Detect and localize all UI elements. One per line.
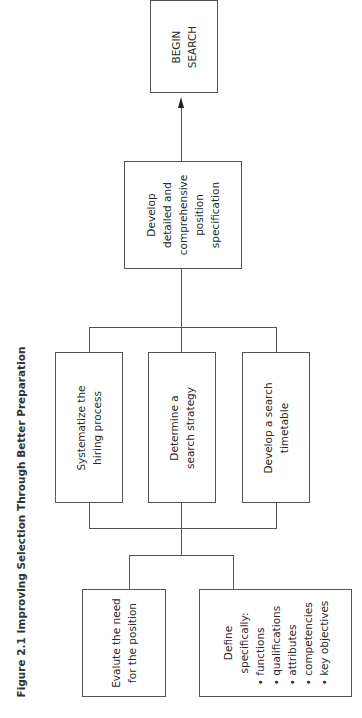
connector-upper-right [276,327,277,352]
connector-inner-left [129,555,130,589]
define-specifically-box: Define specifically: • functions • quali… [199,589,352,697]
evaluate-need-box: Evalute the need for the position [82,589,166,697]
inner-bracket [129,555,234,556]
begin-search-box: BEGIN SEARCH [150,0,218,93]
connector-lower-left [89,503,90,528]
define-item: • qualifications [268,601,284,686]
connector-lower-to-inner [181,528,182,555]
position-specification-label: Develop detailed and comprehensive posit… [143,175,223,255]
define-item: • competencies [300,601,316,686]
connector-inner-right [233,555,234,589]
position-specification-box: Develop detailed and comprehensive posit… [124,161,242,269]
connector-lower-mid [181,503,182,528]
connector-upper-mid [181,327,182,352]
lower-bracket [89,528,277,529]
timetable-label: Develop a search timetable [260,382,292,473]
timetable-box: Develop a search timetable [242,352,310,503]
define-item: • functions [252,601,268,686]
determine-strategy-label: Determine a search strategy [166,386,198,468]
connector-upper-left [89,327,90,352]
connector-lower-right [276,503,277,528]
evaluate-need-label: Evalute the need for the position [108,598,140,688]
connector-spec-to-bracket [181,269,182,327]
define-item: • key objectives [316,601,332,686]
systematize-label: Systematize the hiring process [73,385,105,470]
determine-strategy-box: Determine a search strategy [148,352,216,503]
systematize-box: Systematize the hiring process [55,352,123,503]
arrow-up-icon [178,97,184,108]
upper-bracket [89,327,277,328]
begin-search-label: BEGIN SEARCH [168,25,200,67]
define-specifically-label: Define specifically: • functions • quali… [220,601,332,686]
figure-title: Figure 2.1 Improving Selection Through B… [15,347,27,698]
arrow-shaft [181,104,182,161]
define-item: • attributes [284,601,300,686]
